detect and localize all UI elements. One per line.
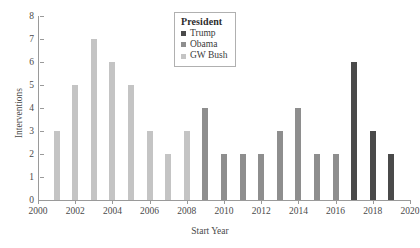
x-tick-label: 2014 <box>278 206 318 216</box>
x-tick-label: 2012 <box>241 206 281 216</box>
x-tick-label: 2008 <box>167 206 207 216</box>
x-tick-mark <box>38 200 39 204</box>
legend-item[interactable]: Trump <box>181 28 228 39</box>
legend-entries: TrumpObamaGW Bush <box>181 28 228 62</box>
legend-swatch-icon <box>181 31 186 36</box>
x-tick-mark <box>187 200 188 204</box>
x-tick-label: 2010 <box>204 206 244 216</box>
bar <box>370 131 376 200</box>
legend-title: President <box>181 16 228 27</box>
bar <box>314 154 320 200</box>
x-tick-mark <box>298 200 299 204</box>
bar-chart: 012345678 Interventions 2000200220042006… <box>0 0 420 248</box>
legend-item-label: GW Bush <box>190 50 228 61</box>
x-tick-mark <box>150 200 151 204</box>
legend-item[interactable]: Obama <box>181 39 228 50</box>
bar <box>54 131 60 200</box>
bar <box>221 154 227 200</box>
x-tick-label: 2002 <box>55 206 95 216</box>
bar <box>128 85 134 200</box>
bar <box>333 154 339 200</box>
bar <box>72 85 78 200</box>
x-tick-label: 2000 <box>18 206 58 216</box>
bar <box>91 39 97 200</box>
bar <box>184 131 190 200</box>
x-tick-mark <box>261 200 262 204</box>
x-tick-mark <box>410 200 411 204</box>
legend-item-label: Obama <box>190 39 217 50</box>
y-tick-label: 7 <box>10 34 34 44</box>
bar <box>388 154 394 200</box>
x-tick-mark <box>112 200 113 204</box>
legend: President TrumpObamaGW Bush <box>174 12 236 67</box>
x-tick-label: 2018 <box>353 206 393 216</box>
x-tick-label: 2006 <box>130 206 170 216</box>
bar <box>202 108 208 200</box>
bar <box>147 131 153 200</box>
y-axis-title: Interventions <box>14 48 24 178</box>
y-tick-label: 0 <box>10 195 34 205</box>
x-tick-mark <box>75 200 76 204</box>
bar <box>240 154 246 200</box>
x-axis-title: Start Year <box>0 226 420 236</box>
x-tick-label: 2004 <box>92 206 132 216</box>
y-tick-label: 8 <box>10 11 34 21</box>
bar <box>109 62 115 200</box>
x-tick-mark <box>336 200 337 204</box>
bar <box>295 108 301 200</box>
legend-item[interactable]: GW Bush <box>181 50 228 61</box>
x-tick-label: 2016 <box>316 206 356 216</box>
bar <box>258 154 264 200</box>
legend-item-label: Trump <box>190 28 216 39</box>
legend-swatch-icon <box>181 54 186 59</box>
legend-swatch-icon <box>181 42 186 47</box>
bar <box>277 131 283 200</box>
bar <box>165 154 171 200</box>
x-tick-mark <box>224 200 225 204</box>
x-tick-mark <box>373 200 374 204</box>
x-tick-label: 2020 <box>390 206 420 216</box>
bar <box>351 62 357 200</box>
